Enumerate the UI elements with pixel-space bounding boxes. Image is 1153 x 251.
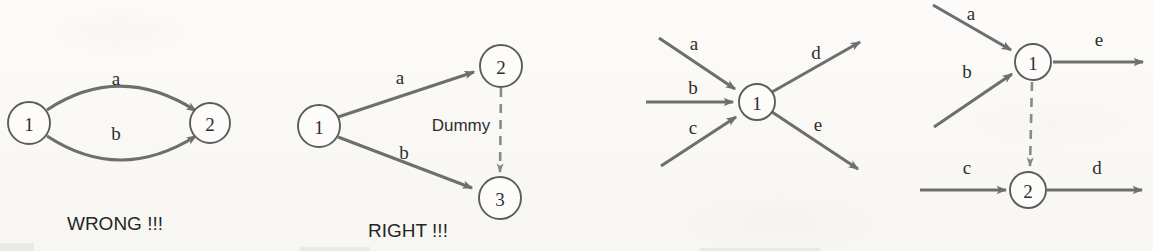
- edge-label-a: a: [112, 68, 121, 89]
- edge-label-d: d: [811, 42, 821, 63]
- edge-a-1-to-2: [338, 72, 474, 117]
- edge-label-e: e: [1095, 29, 1103, 50]
- panel-split-dummy: 1 2 a b e c d: [920, 3, 1143, 208]
- edge-label-dummy: Dummy: [432, 116, 491, 135]
- node-1-label: 1: [24, 114, 34, 135]
- edge-c-in: [661, 117, 736, 166]
- edge-label-b: b: [399, 142, 409, 163]
- node-1-label: 1: [752, 93, 762, 114]
- node-1-label: 1: [1028, 53, 1038, 74]
- edge-label-c: c: [963, 157, 971, 178]
- edge-label-a: a: [690, 33, 699, 54]
- scan-artifacts: [0, 243, 820, 251]
- figure-canvas: 1 2 a b WRONG !!! 1 2 3 a b Dummy RIGHT …: [0, 0, 1153, 251]
- edge-dummy-1-to-2: [1030, 82, 1032, 166]
- panel-wrong: 1 2 a b WRONG !!!: [8, 68, 230, 234]
- node-2-label: 2: [1023, 181, 1033, 202]
- caption-wrong: WRONG !!!: [67, 213, 163, 234]
- caption-right: RIGHT !!!: [368, 220, 448, 241]
- node-2-label: 2: [496, 57, 506, 78]
- edge-b-in-node1: [934, 74, 1012, 127]
- edge-label-b: b: [962, 61, 972, 82]
- edge-a-parallel-top: [47, 86, 196, 111]
- network-diagram: 1 2 a b WRONG !!! 1 2 3 a b Dummy RIGHT …: [0, 0, 1153, 251]
- edge-b-parallel-bottom: [47, 136, 196, 160]
- edge-label-d: d: [1092, 157, 1102, 178]
- edge-label-b: b: [111, 123, 121, 144]
- edge-label-c: c: [689, 117, 697, 138]
- node-2-label: 2: [205, 114, 215, 135]
- panel-right: 1 2 3 a b Dummy RIGHT !!!: [298, 45, 522, 241]
- edge-label-b: b: [688, 77, 698, 98]
- node-1-label: 1: [314, 117, 324, 138]
- panel-merge-burst: 1 a b c d e: [646, 33, 860, 169]
- node-3-label: 3: [495, 189, 505, 210]
- edge-label-a: a: [967, 3, 976, 24]
- edge-label-e: e: [814, 114, 822, 135]
- edge-label-a: a: [396, 67, 405, 88]
- edge-dummy-2-to-3: [500, 88, 501, 172]
